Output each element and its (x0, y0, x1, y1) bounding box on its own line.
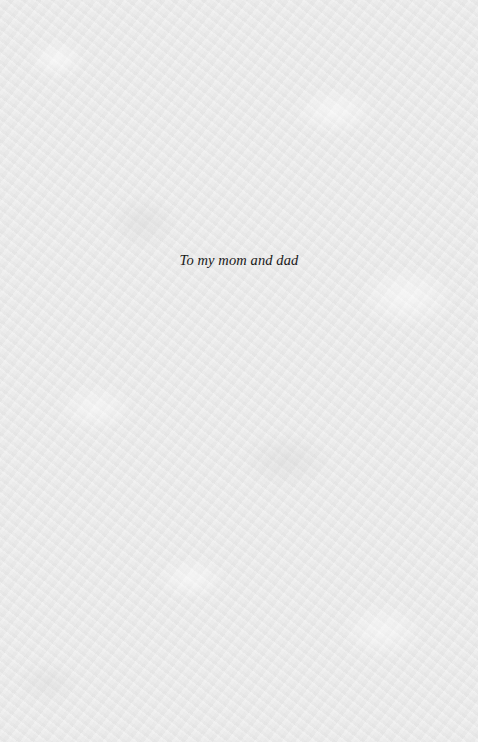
book-page: To my mom and dad (0, 0, 478, 742)
dedication-text: To my mom and dad (0, 252, 478, 269)
